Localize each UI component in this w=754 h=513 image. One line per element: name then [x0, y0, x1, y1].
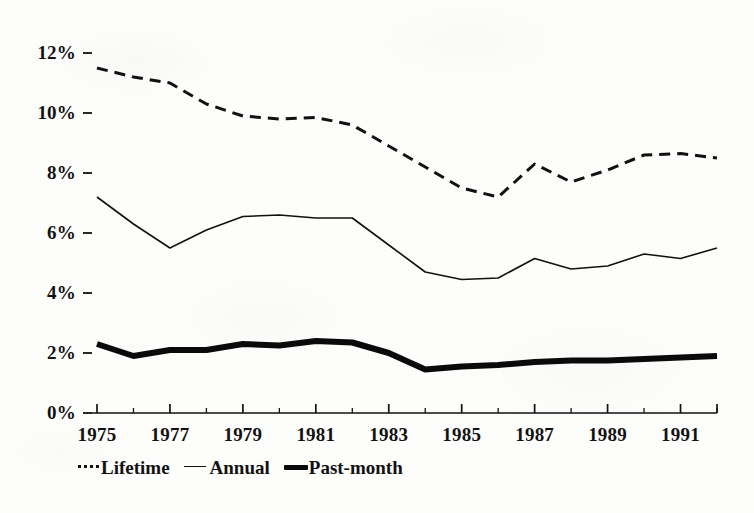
series-group — [97, 68, 717, 370]
x-axis-tick-label: 1975 — [61, 425, 133, 444]
thick-line-icon — [284, 465, 308, 470]
legend-item: Past-month — [284, 458, 403, 477]
series-line-past-month — [97, 341, 717, 370]
y-axis-tick-label: 12% — [14, 43, 76, 62]
y-axis-tick-label: 10% — [14, 103, 76, 122]
x-axis-tick-label: 1981 — [280, 425, 352, 444]
chart-legend: LifetimeAnnualPast-month — [78, 458, 417, 477]
x-axis-tick-label: 1977 — [134, 425, 206, 444]
series-line-lifetime — [97, 68, 717, 197]
legend-item-label: Lifetime — [101, 458, 170, 477]
thin-line-icon — [184, 466, 206, 468]
y-axis-tick-label: 8% — [14, 163, 76, 182]
legend-item: Lifetime — [78, 458, 170, 477]
y-axis-tick-label: 0% — [14, 403, 76, 422]
x-axis-tick-label: 1979 — [207, 425, 279, 444]
y-axis-tick-label: 6% — [14, 223, 76, 242]
y-axis-tick-label: 4% — [14, 283, 76, 302]
x-axis-tick-label: 1985 — [426, 425, 498, 444]
x-axis-tick-label: 1989 — [572, 425, 644, 444]
y-axis-tick-label: 2% — [14, 343, 76, 362]
dashed-line-icon — [78, 465, 100, 468]
legend-item-label: Annual — [210, 458, 270, 477]
x-axis-tick-label: 1991 — [645, 425, 717, 444]
x-axis-tick-label: 1983 — [353, 425, 425, 444]
legend-item-label: Past-month — [309, 458, 403, 477]
legend-item: Annual — [184, 458, 270, 477]
x-axis-tick-label: 1987 — [499, 425, 571, 444]
chart-figure: 12%10%8%6%4%2%0% 19751977197919811983198… — [0, 0, 754, 513]
series-line-annual — [97, 197, 717, 280]
